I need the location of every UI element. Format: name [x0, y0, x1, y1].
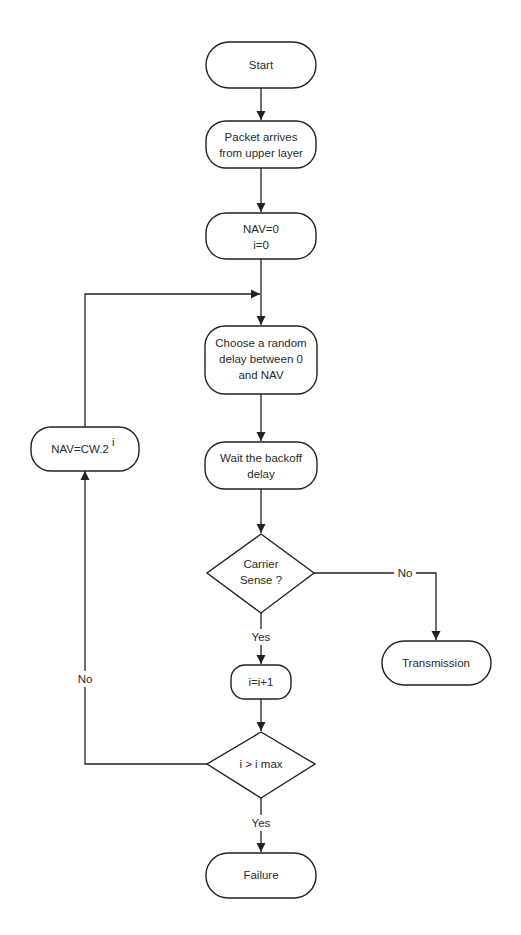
flowchart-diagram: No Yes Yes No Start Packet arrives from … [0, 0, 521, 935]
node-choose-delay: Choose a random delay between 0 and NAV [205, 326, 317, 394]
node-init-line-2: i=0 [253, 239, 269, 251]
edge-label-carrier-yes: Yes [252, 631, 271, 643]
node-update-nav-superscript: i [112, 436, 115, 448]
edge-label-check-yes: Yes [252, 817, 271, 829]
node-choose-delay-line-2: delay between 0 [219, 353, 303, 365]
node-failure-label: Failure [243, 869, 278, 881]
node-carrier-sense-line-2: Sense ? [240, 574, 282, 586]
node-init: NAV=0 i=0 [206, 213, 316, 259]
node-packet-arrives-line-1: Packet arrives [225, 131, 298, 143]
node-update-nav-label: NAV=CW.2 [51, 443, 109, 455]
node-start: Start [206, 42, 316, 88]
node-choose-delay-line-3: and NAV [238, 369, 284, 381]
node-transmission: Transmission [382, 641, 491, 685]
edge-label-carrier-no: No [398, 567, 413, 579]
node-start-label: Start [249, 59, 274, 71]
node-carrier-sense: Carrier Sense ? [207, 534, 314, 613]
edge-label-check-no: No [78, 673, 93, 685]
node-choose-delay-line-1: Choose a random [215, 337, 306, 349]
node-wait-backoff: Wait the backoff delay [205, 442, 317, 489]
node-init-line-1: NAV=0 [243, 223, 279, 235]
node-check-max: i > i max [207, 732, 315, 798]
edge-carrier-no [314, 573, 436, 640]
node-increment-label: i=i+1 [249, 676, 274, 688]
node-update-nav: NAV=CW.2 i [31, 427, 139, 471]
node-increment: i=i+1 [231, 665, 291, 699]
node-transmission-label: Transmission [402, 657, 470, 669]
flowchart-canvas: No Yes Yes No Start Packet arrives from … [0, 0, 521, 935]
node-failure: Failure [206, 853, 316, 898]
node-carrier-sense-line-1: Carrier [243, 558, 278, 570]
edge-check-no [85, 471, 207, 764]
node-packet-arrives: Packet arrives from upper layer [206, 121, 316, 168]
node-check-max-label: i > i max [239, 758, 282, 770]
node-packet-arrives-line-2: from upper layer [219, 147, 303, 159]
node-wait-backoff-line-2: delay [247, 468, 275, 480]
node-wait-backoff-line-1: Wait the backoff [220, 452, 303, 464]
